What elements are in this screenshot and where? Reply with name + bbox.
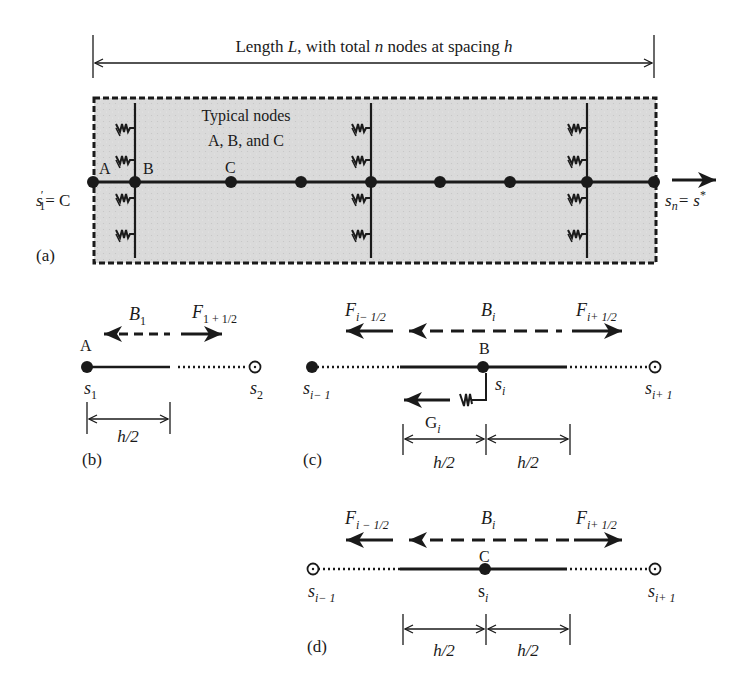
- dim-label-left: h/2: [433, 453, 455, 472]
- right-boundary-label: sn= s*: [665, 188, 706, 213]
- left-boundary-label: s′1= C: [36, 188, 70, 213]
- panel-b-tag: (b): [82, 450, 102, 469]
- si-label: si: [495, 374, 505, 398]
- ghost-node-center: [254, 366, 256, 368]
- panel-a-tag: (a): [36, 246, 55, 265]
- panel-c: Fi− 1/2 Bi Fi+ 1/2 B Gi si− 1 si si+ 1 h…: [303, 300, 672, 472]
- bi-label: Bi: [481, 300, 495, 324]
- s-im1-label: si− 1: [308, 581, 335, 605]
- bi-label: Bi: [481, 508, 495, 532]
- panel-b: B1 F1 + 1/2 A s1 s2 h/2 (b): [80, 302, 263, 469]
- b1-label: B1: [129, 304, 146, 328]
- node-label-c: C: [225, 159, 236, 176]
- node-dot: [648, 176, 660, 188]
- node-dot: [504, 176, 516, 188]
- ghost-node-center: [312, 568, 314, 570]
- gi-label: Gi: [425, 413, 441, 436]
- typical-nodes-label-line2: A, B, and C: [208, 132, 284, 149]
- dim-label-right: h/2: [517, 641, 539, 660]
- f-minus-label: Fi− 1/2: [344, 300, 386, 324]
- node-label-b: B: [479, 340, 490, 357]
- node-dot: [81, 361, 93, 373]
- node-label-a: A: [80, 337, 92, 354]
- node-label-c: C: [479, 548, 490, 565]
- node-dot: [306, 361, 318, 373]
- dim-label-right: h/2: [517, 453, 539, 472]
- f-plus-label: Fi+ 1/2: [575, 508, 617, 532]
- ghost-node-center: [654, 568, 656, 570]
- node-dot: [365, 176, 377, 188]
- node-dot: [479, 563, 491, 575]
- node-label-a: A: [99, 160, 111, 177]
- panel-c-tag: (c): [303, 450, 322, 469]
- f-half-label: F1 + 1/2: [191, 302, 237, 326]
- panel-a: Length L, with total n nodes at spacing …: [36, 35, 716, 265]
- s2-label: s2: [250, 378, 263, 402]
- typical-nodes-label-line1: Typical nodes: [201, 107, 290, 125]
- s1-label: s1: [84, 378, 97, 402]
- panel-d: Fi − 1/2 Bi Fi+ 1/2 C si− 1 si si+ 1 h/2…: [307, 508, 675, 660]
- s-ip1-label: si+ 1: [648, 581, 675, 605]
- ghost-node-center: [654, 366, 656, 368]
- node-dot: [225, 176, 237, 188]
- si-label: si: [478, 581, 488, 605]
- node-dot: [477, 361, 489, 373]
- node-dot: [129, 176, 141, 188]
- s-ip1-label: si+ 1: [645, 378, 672, 402]
- node-dot: [295, 176, 307, 188]
- spring-icon: [460, 394, 472, 406]
- dim-label: h/2: [117, 427, 139, 446]
- node-dot: [87, 176, 99, 188]
- node-dot: [434, 176, 446, 188]
- f-minus-label: Fi − 1/2: [344, 508, 389, 532]
- length-label: Length L, with total n nodes at spacing …: [235, 37, 512, 56]
- dim-label-left: h/2: [433, 641, 455, 660]
- spring-link: [472, 373, 486, 400]
- panel-d-tag: (d): [307, 637, 327, 656]
- s-im1-label: si− 1: [303, 378, 330, 402]
- node-dot: [581, 176, 593, 188]
- node-label-b: B: [143, 160, 154, 177]
- pile-discretization-figure: Length L, with total n nodes at spacing …: [0, 0, 744, 679]
- f-plus-label: Fi+ 1/2: [575, 300, 617, 324]
